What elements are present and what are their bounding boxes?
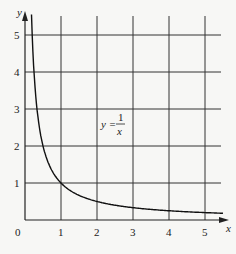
origin-label: 0 — [15, 226, 21, 238]
y-tick-label: 5 — [14, 29, 20, 41]
tick-labels: 1234512345 — [14, 29, 208, 238]
y-tick-label: 2 — [14, 140, 20, 152]
equation-label: y = 1 x — [100, 111, 125, 137]
y-tick-label: 4 — [14, 66, 20, 78]
x-axis-label: x — [225, 222, 231, 234]
y-tick-label: 1 — [14, 177, 20, 189]
chart: 1234512345 y x 0 y = 1 x — [0, 0, 236, 254]
equation-denominator: x — [116, 125, 122, 137]
x-tick-label: 3 — [130, 226, 136, 238]
equation-lhs: y = — [100, 118, 116, 130]
x-tick-label: 1 — [58, 226, 64, 238]
x-tick-label: 5 — [202, 226, 208, 238]
axes — [22, 11, 229, 223]
y-axis-arrow-icon — [22, 11, 28, 21]
x-tick-label: 4 — [166, 226, 172, 238]
x-tick-label: 2 — [94, 226, 100, 238]
y-tick-label: 3 — [14, 103, 20, 115]
y-axis-label: y — [16, 6, 22, 18]
equation-numerator: 1 — [118, 111, 124, 123]
